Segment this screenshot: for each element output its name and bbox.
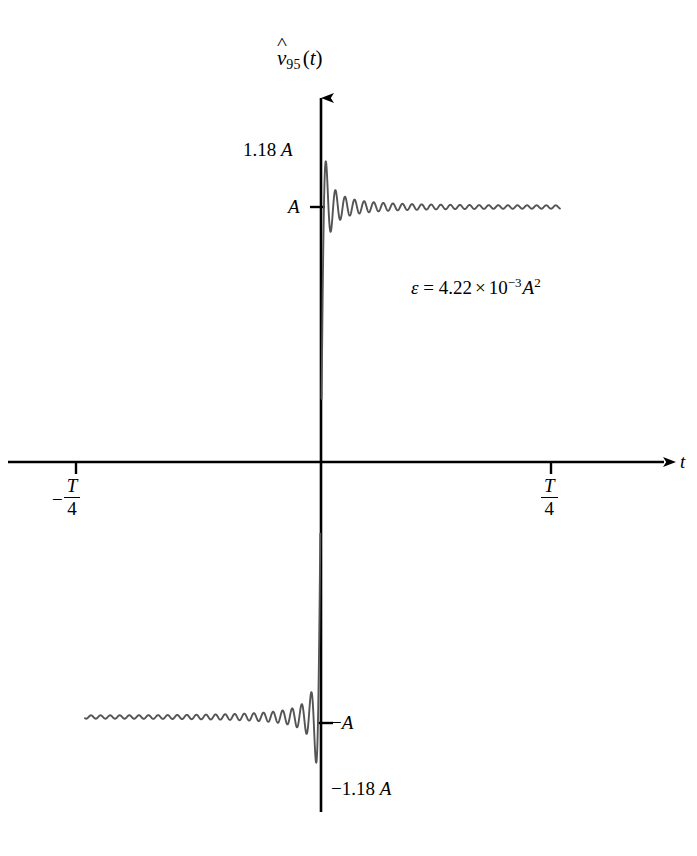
x-tick-label-left-sign: − bbox=[52, 489, 63, 511]
annotation-error-energy: ε = 4.22×10−3A2 bbox=[411, 278, 541, 297]
fraction-negative-quarter-period: T 4 bbox=[64, 476, 81, 519]
fraction-positive-quarter-period: T 4 bbox=[541, 476, 558, 519]
label-amplitude-negative: −A bbox=[331, 713, 353, 732]
waveform-curve-negative-half bbox=[85, 534, 320, 763]
equals-symbol: = bbox=[423, 277, 434, 298]
y-axis-label-subscript: 95 bbox=[286, 57, 300, 72]
x-tick-label-right: T 4 bbox=[541, 476, 558, 519]
figure-container: v95(t) 1.18 A A −A −1.18 A t − T 4 T 4 ε… bbox=[0, 0, 697, 856]
epsilon-symbol: ε bbox=[411, 277, 419, 298]
fraction-numerator: T bbox=[541, 476, 558, 496]
y-axis-label-argument: (t) bbox=[303, 46, 323, 70]
label-overshoot-negative: −1.18 A bbox=[331, 779, 391, 798]
multiplication-symbol: × bbox=[475, 277, 486, 298]
label-overshoot-positive: 1.18 A bbox=[243, 140, 293, 159]
x-axis-label: t bbox=[680, 452, 685, 471]
y-axis-label-variable: v bbox=[277, 48, 286, 69]
error-unit-exponent: 2 bbox=[534, 275, 541, 290]
error-base: 10 bbox=[489, 277, 508, 298]
error-exponent: −3 bbox=[508, 275, 522, 290]
error-mantissa: 4.22 bbox=[439, 277, 472, 298]
fraction-numerator: T bbox=[64, 476, 81, 496]
y-axis-label: v95(t) bbox=[277, 48, 323, 72]
x-tick-label-left: − T 4 bbox=[52, 476, 80, 519]
fraction-denominator: 4 bbox=[542, 499, 558, 519]
error-unit-base: A bbox=[523, 277, 535, 298]
label-amplitude-positive: A bbox=[288, 197, 300, 216]
fraction-denominator: 4 bbox=[64, 499, 80, 519]
